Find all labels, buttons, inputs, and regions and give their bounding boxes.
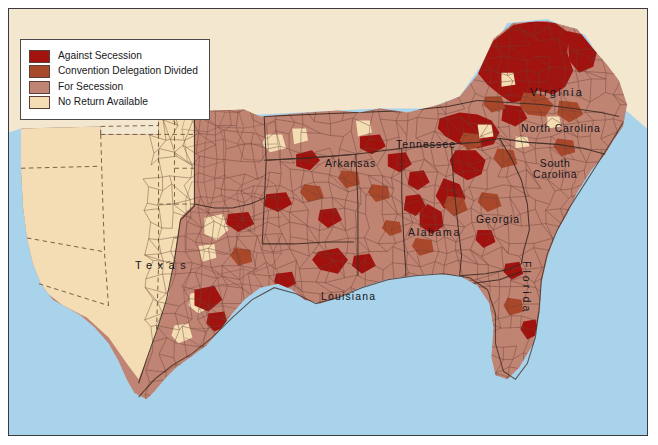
- legend-label-divided: Convention Delegation Divided: [58, 66, 198, 76]
- noreturn-nc-1: [478, 124, 494, 138]
- map-page: Against Secession Convention Delegation …: [0, 0, 658, 445]
- legend-swatch-against: [29, 50, 50, 63]
- legend-row-for: For Secession: [29, 81, 198, 94]
- legend-label-for: For Secession: [58, 82, 123, 92]
- map-legend: Against Secession Convention Delegation …: [20, 39, 210, 120]
- legend-swatch-for: [29, 81, 50, 94]
- legend-row-noreturn: No Return Available: [29, 96, 198, 109]
- legend-swatch-noreturn: [29, 96, 50, 109]
- legend-label-noreturn: No Return Available: [58, 97, 148, 107]
- legend-swatch-divided: [29, 65, 50, 78]
- legend-label-against: Against Secession: [58, 51, 142, 61]
- legend-row-divided: Convention Delegation Divided: [29, 65, 198, 78]
- legend-row-against: Against Secession: [29, 50, 198, 63]
- map-frame: Against Secession Convention Delegation …: [8, 8, 648, 436]
